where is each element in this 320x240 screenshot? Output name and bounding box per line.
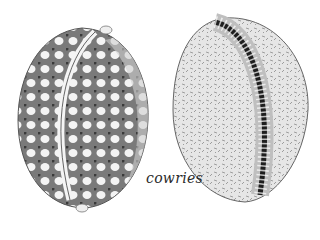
cowrie-shell-dorsal — [10, 20, 155, 215]
caption: cowries — [146, 170, 203, 186]
